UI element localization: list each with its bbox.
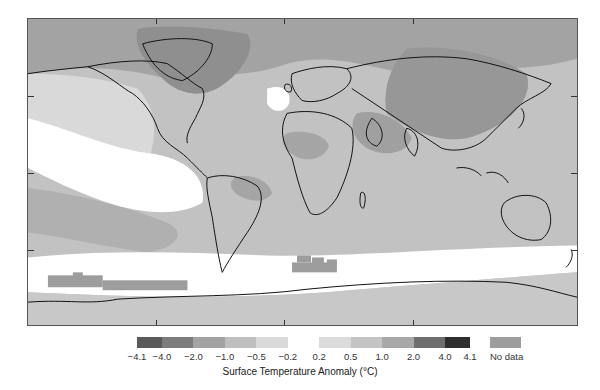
colorbar-title: Surface Temperature Anomaly (°C) xyxy=(0,366,600,377)
frame-tick-right xyxy=(571,250,577,251)
colorbar-bin xyxy=(319,337,350,348)
colorbar-bin xyxy=(414,337,445,348)
frame-tick-bottom xyxy=(284,320,285,325)
colorbar-bin xyxy=(162,337,193,348)
colorbar-tick-label: 0.2 xyxy=(313,351,326,362)
frame-tick-left xyxy=(28,96,34,97)
frame-tick-bottom xyxy=(156,320,157,325)
frame-tick-top xyxy=(156,19,157,24)
colorbar-tick-label: 4.0 xyxy=(438,351,451,362)
colorbar-bin xyxy=(193,337,224,348)
colorbar-tick-label: −0.2 xyxy=(278,351,297,362)
world-map xyxy=(27,18,578,326)
frame-tick-left xyxy=(28,173,34,174)
colorbar-tick-label: −4.0 xyxy=(153,351,172,362)
frame-tick-left xyxy=(28,250,34,251)
colorbar-bin xyxy=(288,337,319,348)
temperature-anomaly-map xyxy=(28,19,577,325)
colorbar-bin xyxy=(137,337,162,348)
colorbar-tick-label: −2.0 xyxy=(184,351,203,362)
no-data-swatch xyxy=(490,337,521,348)
colorbar-tick-label: 2.0 xyxy=(407,351,420,362)
colorbar-bin xyxy=(351,337,382,348)
colorbar-tick-label: 4.1 xyxy=(463,351,476,362)
colorbar-tick-label: −4.1 xyxy=(128,351,147,362)
frame-tick-top xyxy=(284,19,285,24)
frame-tick-top xyxy=(413,19,414,24)
no-data-label: No data xyxy=(490,351,530,362)
colorbar xyxy=(137,337,470,348)
colorbar-bin xyxy=(256,337,287,348)
legend: −4.1−4.0−2.0−1.0−0.5−0.20.20.51.02.04.04… xyxy=(0,333,600,390)
frame-tick-bottom xyxy=(413,320,414,325)
colorbar-bin xyxy=(225,337,256,348)
frame-tick-right xyxy=(571,173,577,174)
frame-tick-right xyxy=(571,96,577,97)
colorbar-tick-label: −1.0 xyxy=(215,351,234,362)
colorbar-tick-label: −0.5 xyxy=(247,351,266,362)
colorbar-bin xyxy=(445,337,470,348)
colorbar-tick-label: 0.5 xyxy=(344,351,357,362)
colorbar-bin xyxy=(382,337,413,348)
colorbar-tick-label: 1.0 xyxy=(376,351,389,362)
